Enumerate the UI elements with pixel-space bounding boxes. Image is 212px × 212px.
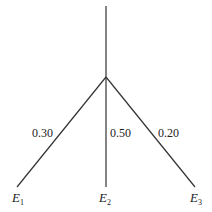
probability-label-e1: 0.30	[32, 126, 53, 140]
probability-label-e2: 0.50	[110, 126, 131, 140]
event-label-e2: E2	[98, 190, 111, 207]
probability-tree-diagram: 0.30 0.50 0.20 E1 E2 E3	[0, 0, 212, 212]
event-label-e3: E3	[189, 190, 202, 207]
event-label-e1: E1	[11, 190, 24, 207]
probability-label-e3: 0.20	[158, 126, 179, 140]
branch-e1	[17, 77, 106, 187]
